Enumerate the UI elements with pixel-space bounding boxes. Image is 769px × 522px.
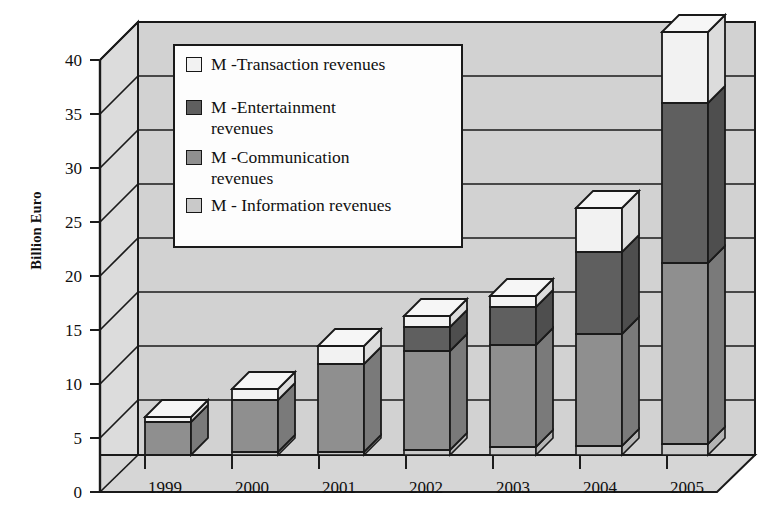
x-tick-mark-2004 — [579, 455, 581, 469]
y-tick-mark-20 — [90, 275, 99, 277]
y-tick-mark-40 — [90, 59, 99, 61]
legend-swatch-entertainment-icon — [186, 100, 202, 115]
legend-item-communication: M -Communication revenues — [186, 147, 461, 189]
x-tick-mark-2000 — [231, 455, 233, 469]
y-tick-mark-15 — [90, 329, 99, 331]
y-tick-label-10: 10 — [38, 376, 82, 393]
y-tick-label-40: 40 — [38, 52, 82, 69]
y-tick-label-0: 0 — [38, 484, 82, 501]
y-tick-label-5: 5 — [38, 430, 82, 447]
bar-chart: Billion Euro — [0, 0, 769, 522]
y-tick-label-25: 25 — [38, 214, 82, 231]
y-tick-label-15: 15 — [38, 322, 82, 339]
legend-item-information: M - Information revenues — [186, 195, 461, 216]
x-tick-label-2004: 2004 — [560, 478, 640, 498]
bar-2000 — [232, 372, 295, 455]
chart-side-wall — [100, 22, 138, 455]
y-tick-label-30: 30 — [38, 160, 82, 177]
legend-label-entertainment: M -Entertainment revenues — [211, 97, 336, 139]
bar-2002 — [404, 299, 467, 455]
x-tick-label-2002: 2002 — [386, 478, 466, 498]
legend: M -Transaction revenues M -Entertainment… — [173, 44, 463, 248]
bar-2003 — [490, 279, 553, 455]
x-tick-mark-2003 — [492, 455, 494, 469]
y-tick-mark-10 — [90, 383, 99, 385]
y-tick-mark-5 — [90, 437, 99, 439]
bar-2005 — [662, 15, 725, 455]
x-tick-label-2005: 2005 — [647, 478, 727, 498]
x-tick-label-2003: 2003 — [473, 478, 553, 498]
y-tick-mark-30 — [90, 167, 99, 169]
y-tick-mark-25 — [90, 221, 99, 223]
legend-item-entertainment: M -Entertainment revenues — [186, 97, 461, 139]
y-tick-mark-35 — [90, 113, 99, 115]
bar-2004 — [576, 191, 639, 455]
x-tick-mark-2001 — [318, 455, 320, 469]
x-tick-mark-1999 — [144, 455, 146, 469]
y-tick-mark-0 — [90, 491, 99, 493]
legend-swatch-communication-icon — [186, 150, 202, 165]
y-tick-label-35: 35 — [38, 106, 82, 123]
x-tick-label-2000: 2000 — [212, 478, 292, 498]
legend-item-transaction: M -Transaction revenues — [186, 54, 461, 75]
legend-label-information: M - Information revenues — [211, 195, 391, 216]
bar-2001 — [318, 329, 381, 455]
legend-label-communication: M -Communication revenues — [211, 147, 350, 189]
legend-label-transaction: M -Transaction revenues — [211, 54, 385, 75]
bar-1999 — [145, 400, 208, 455]
x-tick-label-1999: 1999 — [125, 478, 205, 498]
x-tick-mark-2005 — [666, 455, 668, 469]
x-tick-mark-2002 — [405, 455, 407, 469]
legend-swatch-transaction-icon — [186, 57, 202, 72]
y-tick-label-20: 20 — [38, 268, 82, 285]
x-tick-label-2001: 2001 — [299, 478, 379, 498]
legend-swatch-information-icon — [186, 198, 202, 213]
